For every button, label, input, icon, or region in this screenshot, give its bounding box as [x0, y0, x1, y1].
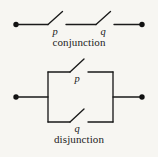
conjunction-circuit: p q	[13, 12, 144, 37]
conjunction-caption: conjunction	[0, 36, 158, 48]
switch-p-series-label: p	[52, 26, 58, 37]
switch-p-parallel-label: p	[74, 73, 80, 84]
switch-q-series-label: q	[101, 26, 106, 37]
disjunction-circuit: p q	[13, 59, 144, 134]
switch-p-parallel-lever	[70, 59, 84, 72]
disjunction-caption: disjunction	[0, 133, 158, 145]
switch-q-parallel-lever	[70, 109, 84, 122]
switch-p-parallel[interactable]: p	[70, 59, 84, 84]
switch-p-series-lever	[48, 12, 63, 25]
conjunction-right-terminal	[139, 22, 144, 27]
switch-q-parallel[interactable]: q	[70, 109, 84, 134]
disjunction-top-branch: p	[48, 59, 113, 84]
switch-circuit-figure: p q p	[0, 0, 158, 157]
switch-q-series-lever	[96, 12, 111, 25]
switch-q-series[interactable]: q	[96, 12, 111, 37]
disjunction-right-terminal	[139, 94, 144, 99]
disjunction-bottom-branch: q	[48, 109, 113, 134]
switch-p-series[interactable]: p	[48, 12, 63, 37]
